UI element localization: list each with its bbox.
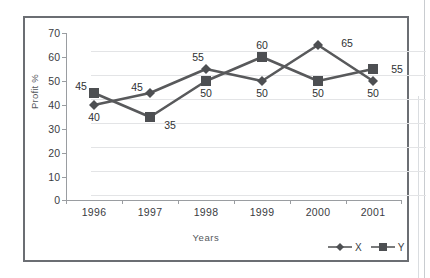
series-layer — [0, 0, 430, 278]
data-label-x-1999: 50 — [247, 88, 277, 99]
marker-x-1998 — [201, 64, 211, 74]
data-label-y-1996: 45 — [66, 81, 96, 92]
legend-item-x[interactable]: X — [327, 241, 362, 253]
data-label-x-1996: 40 — [79, 112, 109, 123]
marker-y-2000 — [313, 76, 323, 86]
data-label-y-1998: 50 — [191, 88, 221, 99]
legend-marker-square-icon — [370, 241, 396, 253]
data-label-y-1997: 35 — [155, 120, 185, 131]
legend-item-y[interactable]: Y — [370, 241, 405, 253]
marker-y-2001 — [368, 64, 378, 74]
data-label-y-2001: 55 — [382, 64, 412, 75]
marker-y-1997 — [145, 112, 155, 122]
legend-label-y: Y — [398, 242, 405, 253]
legend-label-x: X — [355, 242, 362, 253]
marker-x-1996 — [89, 100, 99, 110]
data-label-x-1997: 45 — [122, 82, 152, 93]
chart-page: 70 60 50 40 30 20 10 0 1996 1997 1998 19… — [0, 0, 430, 278]
chart-legend: X Y — [327, 240, 404, 254]
data-label-x-2000: 65 — [332, 38, 362, 49]
data-label-x-2001: 50 — [358, 88, 388, 99]
data-label-x-1998: 55 — [183, 52, 213, 63]
data-label-y-1999: 60 — [247, 40, 277, 51]
legend-marker-diamond-icon — [327, 241, 353, 253]
marker-y-1999 — [257, 52, 267, 62]
data-label-y-2000: 50 — [303, 88, 333, 99]
marker-y-1998 — [201, 76, 211, 86]
